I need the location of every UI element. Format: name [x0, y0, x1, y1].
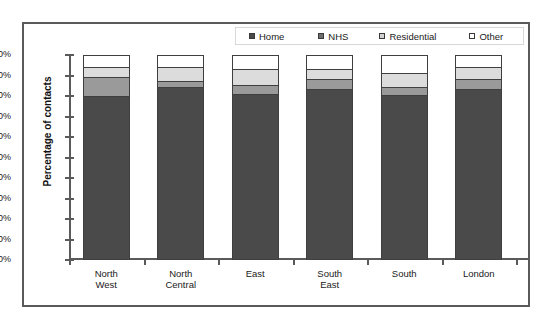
- bar-east[interactable]: [232, 55, 279, 260]
- bar-segment-other: [456, 56, 501, 68]
- bar-segment-residential: [84, 68, 129, 78]
- bar-north-central[interactable]: [157, 55, 204, 260]
- y-axis-tick-label: 80%: [0, 91, 11, 100]
- legend-item-home: Home: [249, 31, 284, 42]
- x-axis-tick: [442, 258, 444, 265]
- x-axis-tick: [218, 258, 220, 265]
- chart-legend: Home NHS Residential Other: [235, 27, 524, 45]
- legend-label-other: Other: [479, 31, 503, 42]
- bar-segment-nhs: [233, 86, 278, 94]
- bar-south-east[interactable]: [306, 55, 353, 260]
- bar-segment-nhs: [382, 88, 427, 95]
- y-axis-tick-label: 10%: [0, 235, 11, 244]
- bar-segment-home: [84, 97, 129, 259]
- x-axis-tick: [69, 258, 71, 265]
- legend-swatch-other: [469, 33, 475, 39]
- x-axis-tick: [144, 258, 146, 265]
- x-axis-tick: [293, 258, 295, 265]
- bar-segment-nhs: [307, 80, 352, 90]
- bar-segment-other: [382, 56, 427, 74]
- bar-segment-residential: [233, 70, 278, 86]
- y-axis-tick-label: 20%: [0, 214, 11, 223]
- bar-segment-home: [456, 90, 501, 258]
- bar-south[interactable]: [381, 55, 428, 260]
- bar-segment-nhs: [84, 78, 129, 96]
- bar-london[interactable]: [455, 55, 502, 260]
- bar-segment-home: [307, 90, 352, 258]
- bar-segment-home: [233, 95, 278, 259]
- bar-segment-residential: [456, 68, 501, 80]
- x-axis-label-line: East: [285, 279, 375, 290]
- legend-label-home: Home: [259, 31, 284, 42]
- y-axis-tick-label: 100%: [0, 50, 11, 59]
- bar-segment-residential: [307, 70, 352, 80]
- y-axis-tick-label: 90%: [0, 71, 11, 80]
- bar-segment-other: [84, 56, 129, 68]
- y-axis-title: Percentage of contacts: [42, 57, 53, 207]
- legend-item-nhs: NHS: [318, 31, 348, 42]
- legend-swatch-nhs: [318, 33, 324, 39]
- legend-swatch-residential: [379, 33, 385, 39]
- bar-segment-home: [158, 88, 203, 259]
- bar-segment-residential: [382, 74, 427, 88]
- bar-segment-nhs: [456, 80, 501, 90]
- bar-segment-residential: [158, 68, 203, 82]
- legend-item-other: Other: [469, 31, 503, 42]
- y-axis-tick-label: 50%: [0, 153, 11, 162]
- y-axis-tick-label: 70%: [0, 112, 11, 121]
- plot-area: [69, 55, 516, 260]
- y-axis-tick-label: 30%: [0, 194, 11, 203]
- bar-segment-other: [307, 56, 352, 70]
- bar-segment-other: [158, 56, 203, 68]
- legend-label-residential: Residential: [389, 31, 436, 42]
- x-axis-label-line: London: [434, 268, 524, 279]
- chart-frame: Home NHS Residential Other Percentage of…: [22, 22, 530, 307]
- x-axis-label-london: London: [434, 268, 524, 279]
- bar-segment-other: [233, 56, 278, 70]
- x-axis-tick: [516, 258, 518, 265]
- y-axis-tick-label: 0%: [0, 255, 11, 264]
- x-axis-label-line: Central: [136, 279, 226, 290]
- legend-swatch-home: [249, 33, 255, 39]
- legend-label-nhs: NHS: [328, 31, 348, 42]
- legend-item-residential: Residential: [379, 31, 436, 42]
- y-axis-tick-label: 40%: [0, 173, 11, 182]
- x-axis-tick: [367, 258, 369, 265]
- bar-north-west[interactable]: [83, 55, 130, 260]
- y-axis-tick-label: 60%: [0, 132, 11, 141]
- bar-segment-home: [382, 96, 427, 259]
